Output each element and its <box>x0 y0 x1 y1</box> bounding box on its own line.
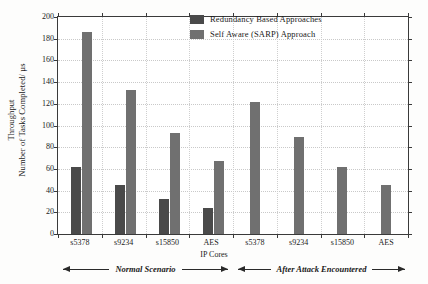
y-axis-tick-mark <box>54 60 58 61</box>
bar <box>250 102 260 234</box>
y-axis-tick-mark-right <box>408 126 412 127</box>
bar <box>126 90 136 234</box>
y-axis-tick-mark-right <box>408 39 412 40</box>
y-axis-tick-label: 180 <box>42 33 54 42</box>
bar <box>71 167 81 234</box>
y-axis-tick-mark-right <box>408 60 412 61</box>
y-axis-tick-mark-right <box>408 191 412 192</box>
arrow-left-head-left <box>63 266 70 272</box>
y-axis-title-line1: Throughput <box>6 63 17 176</box>
legend-item: Redundancy Based Approaches <box>190 12 322 26</box>
legend-label: Self Aware (SARP) Approach <box>210 29 315 39</box>
grid-line-vertical <box>189 17 190 234</box>
x-axis-tick-mark-top <box>146 13 147 17</box>
y-axis-tick-label: 80 <box>46 142 54 151</box>
grid-line-vertical <box>233 17 234 234</box>
y-axis-tick-label: 100 <box>42 120 54 129</box>
x-axis-tick-label: s9234 <box>289 238 308 247</box>
bar <box>337 167 347 234</box>
annotation-after-attack: After Attack Encountered <box>238 262 405 276</box>
y-axis-tick-mark <box>54 191 58 192</box>
grid-line-vertical <box>321 17 322 234</box>
legend-item: Self Aware (SARP) Approach <box>190 27 322 41</box>
grid-line-vertical <box>277 17 278 234</box>
y-axis-tick-mark <box>54 82 58 83</box>
y-axis-tick-mark <box>54 17 58 18</box>
x-axis-tick-label: s5378 <box>70 238 89 247</box>
y-axis-tick-mark-right <box>408 169 412 170</box>
chart-legend: Redundancy Based ApproachesSelf Aware (S… <box>186 10 326 44</box>
y-axis-tick-mark <box>54 169 58 170</box>
y-axis-tick-label: 60 <box>46 163 54 172</box>
legend-label: Redundancy Based Approaches <box>210 14 322 24</box>
y-axis-tick-mark <box>54 39 58 40</box>
plot-inner <box>58 17 408 234</box>
grid-line-vertical <box>146 17 147 234</box>
bar <box>82 32 92 234</box>
y-axis-tick-label: 140 <box>42 77 54 86</box>
arrow-left-head-right <box>238 266 245 272</box>
bar <box>381 185 391 234</box>
y-axis-tick-mark-right <box>408 147 412 148</box>
grid-line-vertical <box>102 17 103 234</box>
y-axis-tick-mark <box>54 212 58 213</box>
x-axis-tick-labels: s5378s9234s15850AESs5378s9234s15850AES <box>57 238 409 250</box>
y-axis-tick-label: 200 <box>42 12 54 21</box>
arrow-right-head-left <box>221 266 228 272</box>
bar <box>170 133 180 234</box>
y-axis-tick-mark <box>54 126 58 127</box>
bar <box>159 199 169 234</box>
legend-swatch-redundancy <box>190 15 204 24</box>
x-axis-tick-label: s15850 <box>331 238 354 247</box>
x-axis-tick-mark-top <box>102 13 103 17</box>
x-axis-title: IP Cores <box>0 250 428 259</box>
y-axis-tick-label: 40 <box>46 185 54 194</box>
x-axis-tick-mark-top <box>364 13 365 17</box>
y-axis-tick-label: 0 <box>50 229 54 238</box>
annotation-label-after-attack: After Attack Encountered <box>271 264 373 274</box>
x-axis-tick-mark-top <box>58 13 59 17</box>
bar <box>115 185 125 234</box>
x-axis-tick-label: s9234 <box>114 238 133 247</box>
x-axis-tick-mark-top <box>408 13 409 17</box>
grid-line-vertical <box>364 17 365 234</box>
y-axis-tick-labels: 020406080100120140160180200 <box>20 10 54 240</box>
plot-area <box>57 16 409 235</box>
y-axis-tick-mark <box>54 104 58 105</box>
bar <box>214 161 224 234</box>
x-axis-tick-label: AES <box>204 238 219 247</box>
chart-figure: Throughput Number of Tasks Completed/ µs… <box>0 0 428 284</box>
arrow-right-head-right <box>398 266 405 272</box>
y-axis-tick-mark-right <box>408 82 412 83</box>
annotation-normal-scenario: Normal Scenario <box>63 262 228 276</box>
x-axis-tick-label: s5378 <box>245 238 264 247</box>
bar <box>294 137 304 234</box>
y-axis-tick-mark-right <box>408 234 412 235</box>
y-axis-tick-mark <box>54 147 58 148</box>
x-axis-tick-label: AES <box>379 238 394 247</box>
legend-swatch-sarp <box>190 30 204 39</box>
y-axis-tick-mark-right <box>408 104 412 105</box>
y-axis-tick-label: 20 <box>46 207 54 216</box>
bar <box>203 208 213 234</box>
y-axis-tick-mark-right <box>408 17 412 18</box>
x-axis-tick-label: s15850 <box>156 238 179 247</box>
annotation-label-normal-scenario: Normal Scenario <box>109 264 181 274</box>
y-axis-tick-label: 160 <box>42 55 54 64</box>
y-axis-tick-mark-right <box>408 212 412 213</box>
y-axis-tick-label: 120 <box>42 98 54 107</box>
